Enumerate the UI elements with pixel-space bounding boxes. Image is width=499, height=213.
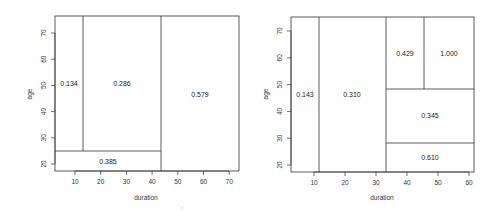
left-ytick-label: 20	[40, 160, 47, 168]
right-cell-6: 0.610	[421, 154, 439, 161]
right-cell-5: 0.345	[421, 112, 439, 119]
right-xtick-label: 50	[434, 179, 442, 186]
right-y-axis: 20 30 40 50 60 70	[276, 27, 291, 169]
right-plot: 0.143 0.310 0.429 1.000 0.345 0.610 10 2…	[262, 17, 474, 201]
right-ytick-label: 20	[276, 161, 283, 169]
left-y-axis: 20 30 40 50 60 70	[40, 29, 55, 168]
stray-dot	[181, 207, 182, 208]
right-ytick-label: 70	[276, 27, 283, 35]
right-xtick-label: 20	[341, 179, 349, 186]
left-xtick-label: 50	[174, 178, 182, 185]
left-xtick-label: 30	[123, 178, 131, 185]
right-xtick-label: 40	[403, 179, 411, 186]
left-xtick-label: 40	[148, 178, 156, 185]
left-x-axis: 10 20 30 40 50 60 70	[71, 171, 233, 185]
left-ytick-label: 40	[40, 108, 47, 116]
left-xtick-label: 20	[97, 178, 105, 185]
right-cell-3: 0.429	[396, 50, 414, 57]
left-ytick-label: 50	[40, 81, 47, 89]
left-cell-2: 0.286	[113, 80, 131, 87]
right-xtick-label: 60	[465, 179, 473, 186]
left-y-axis-title: age	[26, 88, 34, 99]
left-cell-4: 0.579	[191, 91, 209, 98]
right-cell-2: 0.310	[343, 91, 361, 98]
left-cell-3: 0.385	[99, 158, 117, 165]
right-ytick-label: 50	[276, 81, 283, 89]
right-y-axis-title: age	[262, 88, 270, 99]
figure: 0.134 0.286 0.385 0.579 10 20 30 40 50 6…	[0, 0, 499, 213]
right-plot-frame	[291, 17, 474, 172]
left-ytick-label: 70	[40, 29, 47, 37]
right-xtick-label: 30	[372, 179, 380, 186]
right-cell-1: 0.143	[296, 91, 314, 98]
right-ytick-label: 30	[276, 134, 283, 142]
left-x-axis-title: duration	[134, 194, 158, 201]
right-x-axis: 10 20 30 40 50 60	[310, 172, 473, 186]
left-xtick-label: 70	[226, 178, 234, 185]
left-ytick-label: 60	[40, 55, 47, 63]
left-xtick-label: 60	[200, 178, 208, 185]
left-cell-1: 0.134	[60, 80, 78, 87]
right-xtick-label: 10	[310, 179, 318, 186]
right-cell-4: 1.000	[440, 50, 458, 57]
right-x-axis-title: duration	[370, 194, 394, 201]
right-ytick-label: 60	[276, 54, 283, 62]
right-ytick-label: 40	[276, 107, 283, 115]
left-xtick-label: 10	[71, 178, 79, 185]
left-plot: 0.134 0.286 0.385 0.579 10 20 30 40 50 6…	[26, 16, 239, 201]
left-ytick-label: 30	[40, 134, 47, 142]
